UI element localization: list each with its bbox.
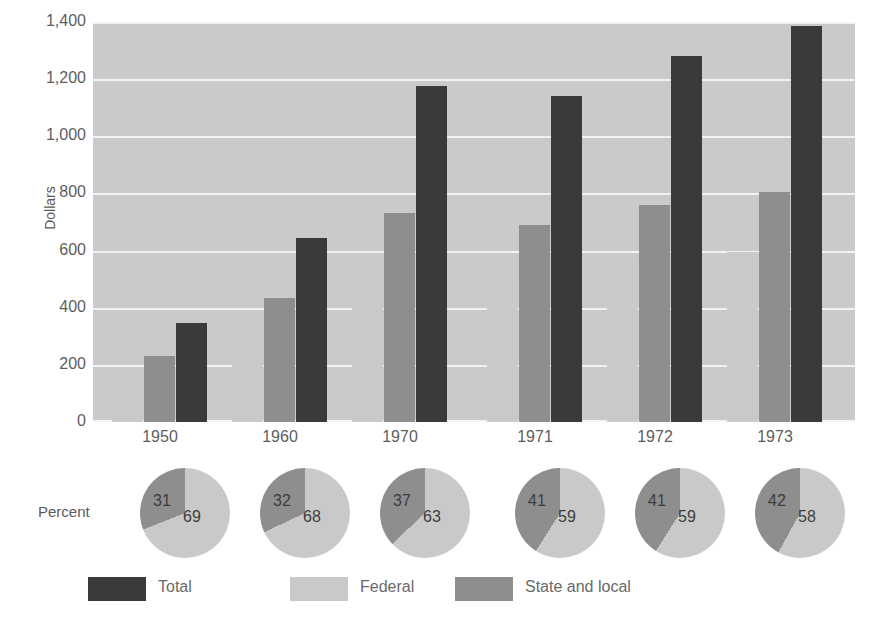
- pie-value-state-and-local: 42: [768, 492, 786, 510]
- legend-swatch: [455, 577, 513, 601]
- bar-group: [232, 22, 328, 422]
- pie-value-federal: 59: [558, 508, 576, 526]
- bar-total[interactable]: [416, 86, 447, 422]
- legend-swatch: [88, 577, 146, 601]
- pie-value-state-and-local: 37: [393, 492, 411, 510]
- bar-total[interactable]: [551, 96, 582, 422]
- bar-federal[interactable]: [487, 285, 518, 422]
- bar-state[interactable]: [519, 225, 550, 422]
- y-axis-tick-label: 800: [0, 183, 86, 201]
- pie-value-federal: 68: [303, 508, 321, 526]
- y-axis-tick-label: 600: [0, 241, 86, 259]
- pie-chart[interactable]: 4258: [755, 468, 845, 558]
- bar-total[interactable]: [791, 26, 822, 422]
- bar-total[interactable]: [296, 238, 327, 422]
- y-axis-tick-label: 200: [0, 355, 86, 373]
- bar-state[interactable]: [384, 213, 415, 422]
- legend-swatch: [290, 577, 348, 601]
- x-axis-tick-label: 1973: [715, 428, 835, 446]
- pie-chart[interactable]: 3169: [140, 468, 230, 558]
- bar-state[interactable]: [144, 356, 175, 422]
- pie-chart[interactable]: 3763: [380, 468, 470, 558]
- bar-total[interactable]: [671, 56, 702, 422]
- bar-group: [487, 22, 583, 422]
- bar-federal[interactable]: [727, 252, 758, 422]
- x-axis-tick-label: 1972: [595, 428, 715, 446]
- x-axis-tick-label: 1960: [220, 428, 340, 446]
- bar-federal[interactable]: [352, 296, 383, 422]
- bar-state[interactable]: [639, 205, 670, 422]
- percent-row-label: Percent: [38, 503, 90, 520]
- y-axis-tick-label: 1,000: [0, 126, 86, 144]
- bar-chart-plot-area: [93, 22, 855, 422]
- bar-group: [112, 22, 208, 422]
- bar-group: [352, 22, 448, 422]
- bar-federal[interactable]: [112, 388, 143, 422]
- bar-state[interactable]: [264, 298, 295, 422]
- pie-value-federal: 59: [678, 508, 696, 526]
- x-axis-tick-label: 1950: [100, 428, 220, 446]
- legend-label: State and local: [525, 578, 631, 596]
- pie-value-federal: 63: [423, 508, 441, 526]
- pie-value-state-and-local: 32: [273, 492, 291, 510]
- pie-value-state-and-local: 31: [153, 492, 171, 510]
- bar-federal[interactable]: [232, 363, 263, 422]
- bar-group: [727, 22, 823, 422]
- y-axis-tick-label: 1,400: [0, 12, 86, 30]
- x-axis-tick-label: 1970: [340, 428, 460, 446]
- bar-federal[interactable]: [607, 269, 638, 422]
- y-axis-tick-label: 0: [0, 412, 86, 430]
- pie-chart[interactable]: 3268: [260, 468, 350, 558]
- pie-value-federal: 58: [798, 508, 816, 526]
- bar-group: [607, 22, 703, 422]
- chart-legend: TotalFederalState and local: [0, 575, 869, 609]
- pie-value-state-and-local: 41: [648, 492, 666, 510]
- pie-chart[interactable]: 4159: [515, 468, 605, 558]
- legend-label: Total: [158, 578, 192, 596]
- y-axis-tick-label: 1,200: [0, 69, 86, 87]
- pie-value-federal: 69: [183, 508, 201, 526]
- x-axis-tick-label: 1971: [475, 428, 595, 446]
- bar-total[interactable]: [176, 323, 207, 422]
- chart-root: Dollars 02004006008001,0001,2001,400 195…: [0, 0, 869, 620]
- bar-state[interactable]: [759, 192, 790, 422]
- pie-value-state-and-local: 41: [528, 492, 546, 510]
- y-axis-tick-label: 400: [0, 298, 86, 316]
- y-axis-tick-labels: 02004006008001,0001,2001,400: [0, 0, 86, 620]
- legend-label: Federal: [360, 578, 414, 596]
- pie-chart[interactable]: 4159: [635, 468, 725, 558]
